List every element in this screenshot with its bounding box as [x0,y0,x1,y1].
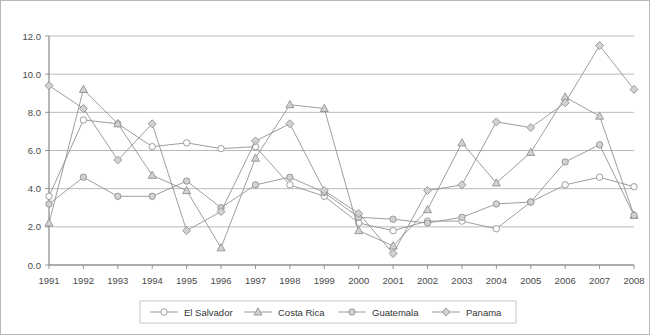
x-tick-label-1999: 1999 [314,275,335,286]
data-point-marker [251,154,259,161]
legend-label-el-salvador: El Salvador [184,307,233,318]
data-point-marker [115,193,121,199]
legend-label-costa-rica: Costa Rica [278,307,325,318]
data-point-marker [287,174,293,180]
x-tick-label-1997: 1997 [245,275,266,286]
x-tick-label-2005: 2005 [520,275,541,286]
data-point-marker [46,193,52,199]
data-point-marker [424,220,430,226]
data-point-marker [596,142,602,148]
data-point-marker [286,120,294,128]
data-point-marker [424,205,432,212]
data-point-marker [492,118,500,126]
data-point-marker [562,159,568,165]
data-point-marker [355,226,363,233]
x-tick-label-2002: 2002 [417,275,438,286]
data-point-marker [631,184,637,190]
series-costa-rica [45,85,638,251]
data-point-marker [596,42,604,50]
legend-label-guatemala: Guatemala [372,307,419,318]
x-tick-label-1995: 1995 [176,275,197,286]
x-tick-label-2000: 2000 [348,275,369,286]
series-line-costa-rica [49,89,634,247]
data-point-marker [149,143,155,149]
data-point-marker [390,227,396,233]
chart-container: 0.02.04.06.08.010.012.0 1991199219931994… [0,0,650,335]
line-chart-canvas: 0.02.04.06.08.010.012.0 1991199219931994… [1,1,650,335]
data-point-marker [46,201,52,207]
y-axis [45,36,49,265]
data-point-marker [149,193,155,199]
data-point-marker [527,148,535,155]
x-axis-tick-labels: 1991199219931994199519961997199819992000… [38,275,644,286]
data-point-marker [183,186,191,193]
x-tick-label-1991: 1991 [38,275,59,286]
data-point-marker [458,181,466,189]
y-tick-label-8.0: 8.0 [28,107,41,118]
data-point-marker [493,226,499,232]
data-point-marker [287,182,293,188]
data-point-marker [45,219,53,226]
data-point-marker [183,178,189,184]
x-tick-label-2003: 2003 [451,275,472,286]
data-point-marker [80,174,86,180]
data-point-marker [459,214,465,220]
x-tick-label-1994: 1994 [142,275,163,286]
data-point-marker [45,82,53,90]
y-tick-label-6.0: 6.0 [28,145,41,156]
x-tick-label-1992: 1992 [73,275,94,286]
data-point-marker [596,112,604,119]
chart-legend: El SalvadorCosta RicaGuatemalaPanama [140,301,516,323]
data-point-marker [286,101,294,108]
legend-label-panama: Panama [466,307,502,318]
series-el-salvador [46,117,637,234]
data-point-marker [630,85,638,93]
x-tick-label-2006: 2006 [555,275,576,286]
y-tick-label-0.0: 0.0 [28,260,41,271]
series-line-el-salvador [49,120,634,231]
data-point-marker [183,227,191,235]
data-point-marker [562,182,568,188]
data-point-marker [148,171,156,178]
x-tick-label-2001: 2001 [383,275,404,286]
data-point-marker [80,117,86,123]
x-tick-label-1993: 1993 [107,275,128,286]
series-guatemala [46,142,637,227]
data-point-marker [631,212,637,218]
series-line-panama [49,46,634,254]
data-point-marker [79,85,87,92]
y-tick-label-12.0: 12.0 [23,31,42,42]
data-point-marker [349,309,355,315]
gridlines [49,36,634,265]
x-tick-label-2008: 2008 [623,275,644,286]
data-point-marker [527,124,535,132]
data-point-marker [161,309,167,315]
series-line-guatemala [49,145,634,223]
data-point-marker [218,145,224,151]
y-tick-label-10.0: 10.0 [23,69,42,80]
x-tick-label-1998: 1998 [279,275,300,286]
data-point-marker [217,244,225,251]
x-axis [49,265,634,269]
data-point-marker [79,105,87,113]
data-point-marker [424,187,432,195]
data-point-marker [183,140,189,146]
x-tick-label-1996: 1996 [210,275,231,286]
x-tick-label-2007: 2007 [589,275,610,286]
data-point-marker [390,216,396,222]
x-tick-label-2004: 2004 [486,275,507,286]
data-point-marker [493,201,499,207]
y-axis-tick-labels: 0.02.04.06.08.010.012.0 [23,31,42,271]
y-tick-label-2.0: 2.0 [28,221,41,232]
data-point-marker [458,139,466,146]
data-point-marker [596,174,602,180]
y-tick-label-4.0: 4.0 [28,183,41,194]
data-point-marker [252,182,258,188]
data-point-marker [251,137,259,145]
data-point-marker [528,199,534,205]
